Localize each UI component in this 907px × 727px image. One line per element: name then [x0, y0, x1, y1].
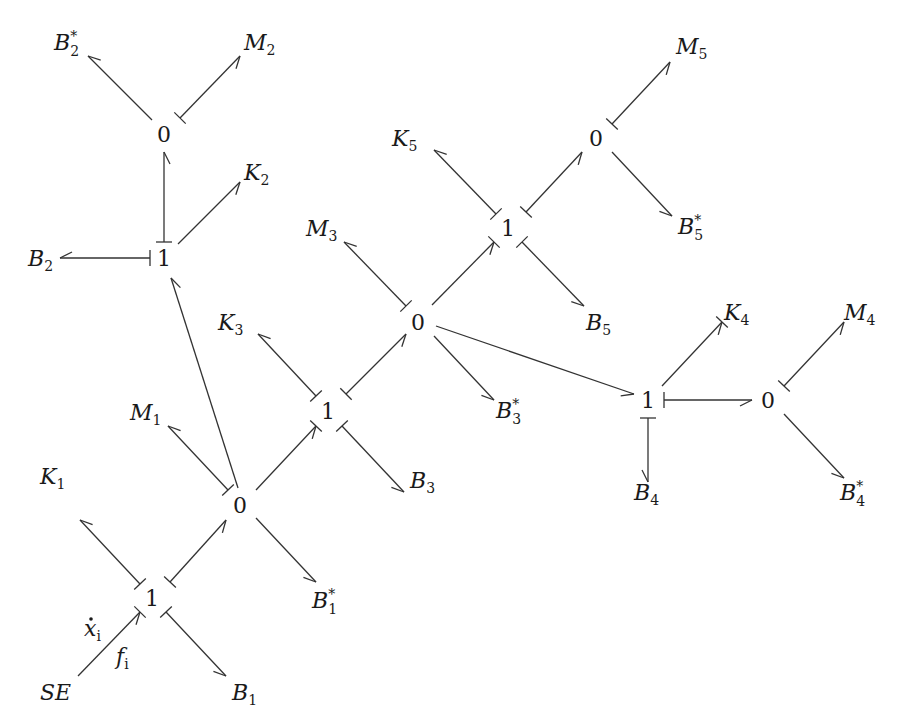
element-label-k5: K5 — [391, 126, 417, 154]
element-label-m5: M5 — [675, 34, 707, 62]
bond — [640, 418, 656, 482]
bond — [662, 317, 728, 387]
bond — [60, 250, 150, 266]
bonds-layer — [60, 56, 844, 676]
element-label-b1s: B*1 — [311, 586, 337, 617]
zero-junction: 0 — [233, 493, 247, 518]
bond — [88, 56, 152, 120]
dot-accent-icon — [89, 617, 93, 621]
bond — [664, 392, 752, 408]
bond-graph-diagram: 1010101010 SEK1M1B1B*1K3B3M3B*3K5B5M5B*5… — [0, 0, 907, 727]
bond — [168, 426, 234, 496]
one-junction: 1 — [641, 388, 655, 413]
element-label-m4: M4 — [843, 300, 876, 328]
one-junction: 1 — [501, 216, 515, 241]
zero-junction: 0 — [761, 388, 775, 413]
element-label-b2: B2 — [27, 246, 53, 274]
element-label-m3: M3 — [305, 216, 337, 244]
zero-junction: 0 — [589, 126, 603, 151]
element-label-b5: B5 — [585, 310, 611, 338]
bond — [344, 242, 412, 312]
zero-junction: 0 — [157, 122, 171, 147]
bond — [80, 520, 146, 590]
bond — [178, 182, 240, 244]
element-label-b3s: B*3 — [495, 396, 521, 427]
element-label-b1: B1 — [231, 680, 257, 708]
element-label-b3: B3 — [409, 468, 435, 496]
zero-junction: 0 — [411, 310, 425, 335]
element-label-b4s: B*4 — [839, 478, 865, 509]
bond — [256, 421, 322, 491]
half-arrow-icon — [60, 252, 72, 258]
half-arrow-icon — [740, 400, 752, 406]
bond — [340, 334, 406, 400]
bond — [258, 334, 322, 402]
bond — [336, 421, 404, 493]
bond — [606, 62, 670, 130]
bond — [174, 56, 240, 124]
bond — [156, 152, 172, 242]
element-label-se: SE — [40, 680, 71, 705]
bond — [256, 518, 316, 582]
element-label-b4: B4 — [633, 480, 659, 508]
one-junction: 1 — [145, 586, 159, 611]
half-arrow-icon — [164, 152, 170, 164]
annotation-fi: fi — [114, 644, 129, 672]
bond — [784, 414, 844, 478]
element-label-m2: M2 — [243, 30, 275, 58]
element-label-b5s: B*5 — [677, 212, 703, 243]
element-label-k2: K2 — [243, 160, 269, 188]
bond — [434, 150, 502, 220]
element-label-b2s: B*2 — [53, 28, 79, 59]
bond — [432, 236, 500, 305]
bond — [516, 236, 584, 306]
bond — [164, 520, 226, 587]
bond — [612, 152, 672, 216]
half-arrow-icon — [621, 394, 634, 396]
one-junction: 1 — [321, 399, 335, 424]
bond — [778, 322, 844, 392]
one-junction: 1 — [157, 246, 171, 271]
element-label-k3: K3 — [217, 310, 243, 338]
element-label-k4: K4 — [723, 300, 749, 328]
annotation-xdot: xi — [84, 616, 101, 644]
element-label-m1: M1 — [129, 400, 161, 428]
bond — [160, 607, 226, 677]
element-label-k1: K1 — [39, 464, 65, 492]
bond — [434, 336, 494, 400]
bond — [520, 152, 582, 218]
